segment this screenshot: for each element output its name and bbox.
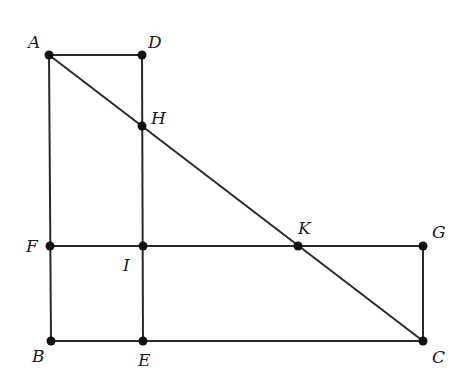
point-K: [294, 242, 303, 251]
point-I: [139, 242, 148, 251]
label-I: I: [122, 255, 130, 275]
label-B: B: [31, 346, 45, 366]
point-A: [45, 51, 54, 60]
segment-AB: [49, 55, 51, 341]
segment-DE: [142, 55, 143, 341]
point-B: [47, 337, 56, 346]
label-E: E: [137, 350, 151, 370]
label-F: F: [25, 236, 39, 256]
point-C: [419, 337, 428, 346]
point-H: [138, 122, 147, 131]
segment-AC: [49, 55, 423, 341]
label-A: A: [26, 32, 40, 52]
point-F: [46, 242, 55, 251]
point-E: [139, 337, 148, 346]
geometry-diagram: A D H F I K G B E C: [0, 0, 469, 391]
label-K: K: [297, 218, 312, 238]
label-H: H: [150, 108, 167, 128]
label-G: G: [432, 222, 446, 242]
label-C: C: [432, 347, 445, 367]
label-D: D: [147, 32, 162, 52]
point-G: [419, 242, 428, 251]
point-D: [138, 51, 147, 60]
